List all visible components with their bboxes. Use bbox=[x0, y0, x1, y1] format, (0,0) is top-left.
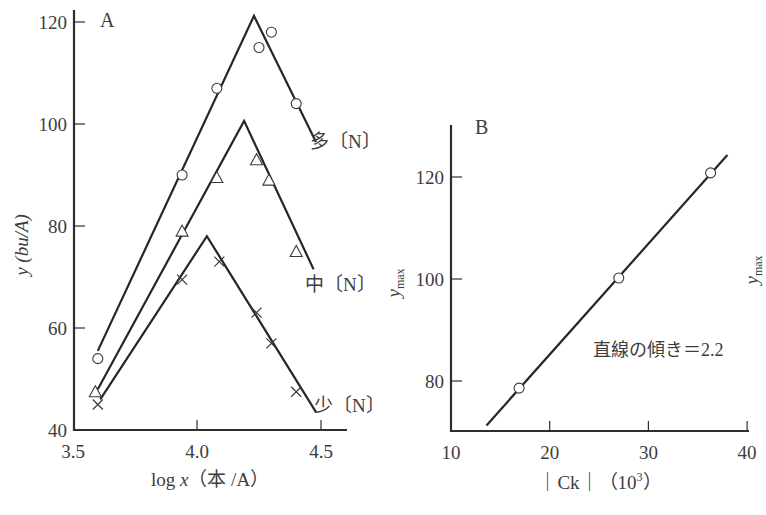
circle-marker bbox=[254, 43, 264, 53]
panel-b-x-axis-label: ｜Ck｜（103） bbox=[538, 470, 661, 493]
fit-line bbox=[98, 16, 316, 351]
panel-b-y-axis-label: ymax bbox=[383, 268, 407, 299]
panel-a-x-label-unit: （本 /A） bbox=[188, 469, 269, 490]
panel-a-series-labels: 多〔N〕中〔N〕少〔N〕 bbox=[305, 131, 385, 416]
panel-a-y-ticks: 406080100120 bbox=[39, 12, 86, 441]
slope-annotation: 直線の傾き＝2.2 bbox=[593, 340, 724, 360]
panel-b-x-ticks: 10203040 bbox=[442, 421, 757, 463]
x-tick-label: 20 bbox=[540, 442, 559, 463]
x-tick-label: 30 bbox=[639, 442, 658, 463]
series-label: 多〔N〕 bbox=[310, 131, 381, 152]
y-tick-label: 80 bbox=[48, 216, 67, 237]
x-tick-label: 3.5 bbox=[61, 441, 85, 462]
circle-marker bbox=[93, 354, 103, 364]
panel-a-y-axis-label-text: y (bu/A) bbox=[11, 214, 33, 278]
panel-b-y-ticks: 80100120 bbox=[416, 167, 463, 392]
panel-b-y-label-sub: max bbox=[393, 268, 407, 289]
panel-b-y-label-main: y bbox=[383, 289, 404, 300]
series-label: 少〔N〕 bbox=[314, 395, 385, 416]
x-tick-label: 4.5 bbox=[309, 441, 333, 462]
y-tick-label: 60 bbox=[48, 318, 67, 339]
figure-canvas: 406080100120 3.54.04.5 多〔N〕中〔N〕少〔N〕 A y … bbox=[0, 0, 766, 515]
panel-a-x-axis-label: log x（本 /A） bbox=[151, 469, 269, 490]
x-marker bbox=[93, 400, 103, 410]
panel-a-chart: 406080100120 3.54.04.5 多〔N〕中〔N〕少〔N〕 A y … bbox=[11, 9, 385, 490]
panel-b-label: B bbox=[475, 116, 488, 138]
x-tick-label: 40 bbox=[738, 442, 757, 463]
circle-marker bbox=[706, 168, 716, 178]
circle-marker bbox=[291, 99, 301, 109]
panel-a-x-label-log: log bbox=[151, 469, 180, 490]
y-tick-label: 40 bbox=[48, 420, 67, 441]
circle-marker bbox=[514, 383, 524, 393]
stray-ymax-label: ymax bbox=[741, 255, 765, 286]
circle-marker bbox=[614, 273, 624, 283]
panel-a-fit-lines bbox=[98, 16, 316, 412]
panel-a-data-markers bbox=[89, 27, 302, 409]
y-tick-label: 100 bbox=[416, 269, 445, 290]
stray-ymax-main: y bbox=[741, 276, 762, 287]
x-tick-label: 4.0 bbox=[185, 441, 209, 462]
panel-a-label: A bbox=[100, 9, 115, 31]
circle-marker bbox=[212, 83, 222, 93]
y-tick-label: 100 bbox=[39, 114, 68, 135]
stray-ymax-sub: max bbox=[751, 255, 765, 276]
circle-marker bbox=[177, 170, 187, 180]
y-tick-label: 120 bbox=[39, 12, 68, 33]
panel-b-x-label-main: ｜Ck｜（10 bbox=[538, 472, 636, 493]
circle-marker bbox=[266, 27, 276, 37]
y-tick-label: 80 bbox=[425, 371, 444, 392]
x-marker bbox=[291, 387, 301, 397]
panel-a-x-ticks: 3.54.04.5 bbox=[61, 420, 333, 462]
triangle-marker bbox=[263, 174, 275, 185]
series-label: 中〔N〕 bbox=[305, 274, 376, 295]
x-tick-label: 10 bbox=[442, 442, 461, 463]
y-tick-label: 120 bbox=[416, 167, 445, 188]
panel-b-x-label-end: ） bbox=[643, 472, 662, 493]
panel-a-y-axis-label: y (bu/A) bbox=[11, 214, 33, 278]
panel-b-chart: 80100120 10203040 B ymax ｜Ck｜（103） 直線の傾き… bbox=[383, 116, 765, 493]
figure: 406080100120 3.54.04.5 多〔N〕中〔N〕少〔N〕 A y … bbox=[0, 0, 766, 515]
fit-line bbox=[98, 121, 314, 389]
triangle-marker bbox=[290, 246, 302, 257]
